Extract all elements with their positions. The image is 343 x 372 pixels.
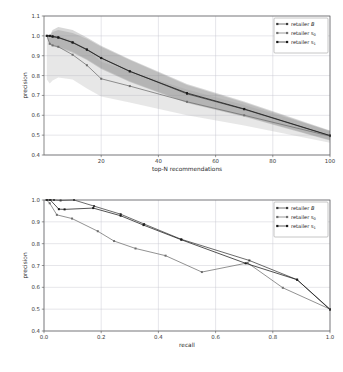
data-point-marker <box>245 262 247 264</box>
xtick-label: 100 <box>325 158 336 164</box>
data-point-marker <box>120 215 122 217</box>
data-point-marker <box>143 224 145 226</box>
data-point-marker <box>49 202 51 204</box>
chart-panel-precision-recall: 0.00.20.40.60.81.00.40.50.60.70.80.91.0r… <box>0 186 343 372</box>
data-point-marker <box>186 101 188 103</box>
data-point-marker <box>72 42 74 44</box>
data-point-marker <box>296 279 298 281</box>
data-point-marker <box>248 259 250 261</box>
ytick-label: 0.6 <box>31 284 40 290</box>
legend-marker-start <box>276 216 278 218</box>
ytick-label: 0.4 <box>31 152 40 158</box>
data-point-marker <box>243 108 245 110</box>
legend-marker-end <box>286 207 288 209</box>
legend-marker-end <box>286 41 288 43</box>
legend-label: retailer B <box>291 205 315 211</box>
y-axis-label: precision <box>22 252 29 278</box>
data-point-marker <box>186 92 188 94</box>
xtick-label: 80 <box>269 158 276 164</box>
xtick-label: 20 <box>98 158 105 164</box>
figure-container: 204060801000.40.50.60.70.80.91.01.1top-N… <box>0 0 343 372</box>
legend-marker-start <box>276 23 278 25</box>
legend-marker-end <box>286 225 288 227</box>
precision-vs-topn-svg: 204060801000.40.50.60.70.80.91.01.1top-N… <box>0 0 343 186</box>
data-point-marker <box>135 247 137 249</box>
xtick-label: 0.2 <box>97 334 106 340</box>
legend: retailer Bretailer s0retailer s1 <box>274 18 328 53</box>
data-point-marker <box>72 54 74 56</box>
data-point-marker <box>86 64 88 66</box>
ytick-label: 0.8 <box>31 241 40 247</box>
xtick-label: 0.4 <box>154 334 163 340</box>
xtick-label: 0.0 <box>40 334 49 340</box>
x-axis-label: top-N recommendations <box>152 166 222 173</box>
legend-marker-start <box>276 225 278 227</box>
precision-recall-svg: 0.00.20.40.60.81.00.40.50.60.70.80.91.0r… <box>0 186 343 372</box>
data-point-marker <box>64 208 66 210</box>
legend-marker-start <box>276 41 278 43</box>
ytick-label: 0.9 <box>31 219 40 225</box>
chart-panel-precision-vs-topn: 204060801000.40.50.60.70.80.91.01.1top-N… <box>0 0 343 186</box>
xtick-label: 40 <box>155 158 162 164</box>
data-point-marker <box>113 240 115 242</box>
ytick-label: 0.4 <box>31 328 40 334</box>
ytick-label: 1.0 <box>31 33 40 39</box>
data-point-marker <box>201 271 203 273</box>
data-point-marker <box>57 46 59 48</box>
data-point-marker <box>49 35 51 37</box>
data-point-marker <box>97 230 99 232</box>
data-point-marker <box>52 35 54 37</box>
legend: retailer Bretailer s0retailer s1 <box>274 202 328 237</box>
legend-marker-end <box>286 23 288 25</box>
data-point-marker <box>71 218 73 220</box>
legend-marker-start <box>276 32 278 34</box>
data-point-marker <box>52 44 54 46</box>
ytick-label: 0.9 <box>31 53 40 59</box>
ytick-label: 0.6 <box>31 112 40 118</box>
legend-label: retailer B <box>291 21 315 27</box>
xtick-label: 60 <box>212 158 219 164</box>
data-point-marker <box>46 35 48 37</box>
legend-marker-start <box>276 207 278 209</box>
ytick-label: 0.7 <box>31 92 40 98</box>
ytick-label: 1.1 <box>31 13 40 19</box>
ytick-label: 0.5 <box>31 306 40 312</box>
data-point-marker <box>86 49 88 51</box>
legend-marker-end <box>286 32 288 34</box>
data-point-marker <box>57 36 59 38</box>
ytick-label: 1.0 <box>31 197 40 203</box>
data-point-marker <box>129 85 131 87</box>
data-point-marker <box>129 70 131 72</box>
data-point-marker <box>100 78 102 80</box>
x-axis-label: recall <box>179 342 195 348</box>
data-point-marker <box>165 255 167 257</box>
ytick-label: 0.5 <box>31 132 40 138</box>
ytick-label: 0.8 <box>31 73 40 79</box>
data-point-marker <box>282 287 284 289</box>
ytick-label: 0.7 <box>31 263 40 269</box>
data-point-marker <box>58 208 60 210</box>
data-point-marker <box>243 114 245 116</box>
legend-marker-end <box>286 216 288 218</box>
data-point-marker <box>180 239 182 241</box>
data-point-marker <box>56 214 58 216</box>
xtick-label: 0.6 <box>211 334 220 340</box>
data-point-marker <box>92 207 94 209</box>
y-axis-label: precision <box>22 72 29 98</box>
data-point-marker <box>93 205 95 207</box>
xtick-label: 1.0 <box>326 334 335 340</box>
data-point-marker <box>49 43 51 45</box>
data-point-marker <box>100 57 102 59</box>
xtick-label: 0.8 <box>269 334 278 340</box>
